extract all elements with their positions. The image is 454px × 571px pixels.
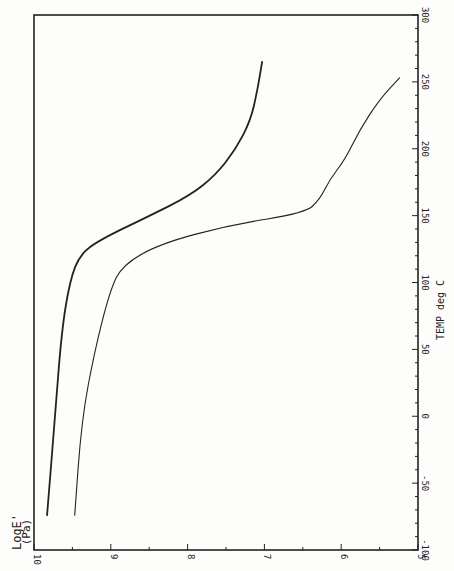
temp-tick-label: 150 (420, 207, 430, 223)
series-line-2 (75, 78, 400, 515)
loge-tick-label: 8 (186, 554, 196, 559)
rotated-line-chart: -100-500501001502002503001098765 TEMP de… (0, 0, 454, 571)
tick-labels: -100-500501001502002503001098765 (32, 7, 430, 565)
temp-tick-label: -50 (420, 475, 430, 491)
loge-axis-label-2: (Pa) (20, 519, 33, 546)
axis-ticks (34, 15, 418, 550)
temp-tick-label: 0 (420, 414, 430, 419)
temp-tick-label: 50 (420, 344, 430, 355)
temp-tick-label: 250 (420, 74, 430, 90)
loge-tick-label: 5 (416, 554, 426, 559)
temp-axis-label: TEMP deg C (435, 280, 446, 340)
temp-tick-label: 200 (420, 141, 430, 157)
loge-tick-label: 7 (262, 554, 272, 559)
loge-tick-label: 9 (109, 554, 119, 559)
temp-tick-label: 100 (420, 274, 430, 290)
data-series (47, 62, 400, 515)
loge-tick-label: 6 (339, 554, 349, 559)
plot-frame (34, 15, 418, 550)
temp-tick-label: 300 (420, 7, 430, 23)
loge-tick-label: 10 (32, 554, 42, 565)
